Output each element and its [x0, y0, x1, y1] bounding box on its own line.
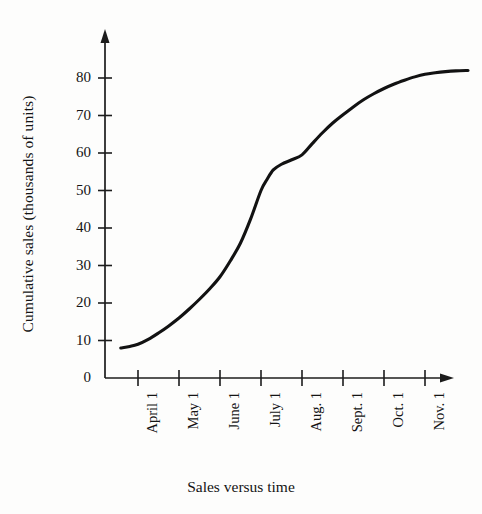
- y-tick-label: 40: [57, 220, 91, 235]
- y-axis-arrowhead: [101, 29, 110, 43]
- y-tick-label: 10: [57, 333, 91, 348]
- y-tick-label: 70: [57, 108, 91, 123]
- x-tick-label: April 1: [145, 392, 160, 474]
- x-tick-label: Sept. 1: [350, 392, 365, 474]
- x-axis-arrowhead: [440, 374, 454, 383]
- y-tick-label: 80: [57, 70, 91, 85]
- y-tick-label: 20: [57, 295, 91, 310]
- x-axis-title: Sales versus time: [0, 478, 482, 496]
- y-tick-label: 0: [57, 370, 91, 385]
- sales-curve-line: [121, 71, 468, 349]
- y-tick-label: 60: [57, 145, 91, 160]
- y-axis-title: Cumulative sales (thousands of units): [10, 42, 46, 386]
- y-tick-label: 30: [57, 258, 91, 273]
- x-tick-label: July 1: [268, 392, 283, 474]
- x-tick-label: Nov. 1: [432, 392, 447, 474]
- y-tick-label: 50: [57, 183, 91, 198]
- y-axis-title-text: Cumulative sales (thousands of units): [19, 95, 37, 332]
- x-tick-label: Aug. 1: [309, 392, 324, 474]
- x-tick-label: May 1: [186, 392, 201, 474]
- x-tick-label: June 1: [227, 392, 242, 474]
- x-tick-label: Oct. 1: [391, 392, 406, 474]
- chart-figure: Cumulative sales (thousands of units) 01…: [0, 0, 482, 514]
